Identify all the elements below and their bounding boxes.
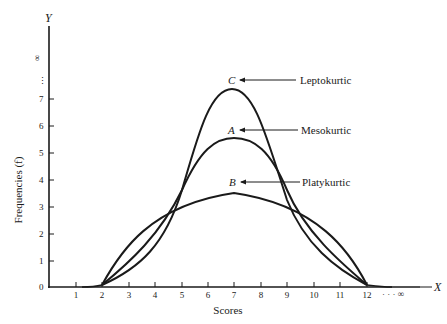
y-tick-labels: 7 6 5 4 3 2 1 0 (39, 94, 44, 292)
svg-text:12: 12 (363, 290, 372, 300)
callout-mesokurtic: Mesokurtic (301, 124, 351, 136)
svg-text:0: 0 (39, 282, 44, 292)
svg-text:3: 3 (39, 202, 44, 212)
svg-text:4: 4 (153, 290, 158, 300)
x-axis-title: Scores (213, 304, 242, 316)
curve-label-b: B (229, 176, 236, 188)
svg-text:8: 8 (259, 290, 264, 300)
y-axis-title: Frequencies (f) (12, 156, 25, 223)
svg-text:1: 1 (74, 290, 79, 300)
platykurtic-curve (102, 193, 367, 285)
y-infinity-label: ∞ (32, 55, 42, 61)
arrowhead-icon (239, 78, 245, 83)
arrowhead-icon (240, 180, 246, 185)
x-infinity-label: · · · ∞ (382, 289, 404, 299)
svg-text:1: 1 (39, 256, 44, 266)
svg-text:6: 6 (206, 290, 211, 300)
callout-platykurtic: Platykurtic (302, 176, 350, 188)
svg-text:11: 11 (336, 290, 345, 300)
arrowhead-icon (239, 128, 245, 133)
svg-text:4: 4 (39, 175, 44, 185)
svg-text:5: 5 (39, 148, 44, 158)
curve-label-c: C (228, 74, 236, 86)
callout-leptokurtic: Leptokurtic (300, 74, 351, 86)
svg-text:2: 2 (39, 229, 44, 239)
svg-text:7: 7 (232, 290, 237, 300)
svg-text:3: 3 (127, 290, 132, 300)
svg-text:5: 5 (180, 290, 185, 300)
x-axis-letter: X (433, 280, 442, 294)
y-ellipsis: ⋮ (38, 76, 47, 86)
mesokurtic-curve (102, 138, 367, 285)
svg-text:9: 9 (285, 290, 290, 300)
y-axis-letter: Y (45, 11, 53, 25)
svg-text:6: 6 (39, 121, 44, 131)
svg-text:2: 2 (100, 290, 105, 300)
x-tick-labels: 1 2 3 4 5 6 7 8 9 10 11 12 (74, 290, 372, 300)
kurtosis-chart: Y X ∞ ⋮ 7 6 5 4 3 2 1 0 1 (0, 0, 447, 324)
curve-label-a: A (227, 124, 235, 136)
svg-text:10: 10 (310, 290, 320, 300)
svg-text:7: 7 (39, 94, 44, 104)
